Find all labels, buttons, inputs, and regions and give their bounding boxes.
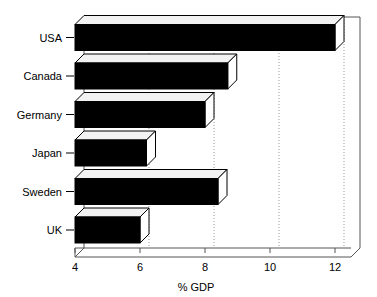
category-label-canada: Canada <box>23 70 62 82</box>
bar-japan[interactable] <box>75 131 156 166</box>
category-label-usa: USA <box>39 32 62 44</box>
bar-sweden[interactable] <box>75 170 227 205</box>
bar-front-face <box>75 102 205 128</box>
bar-usa[interactable] <box>75 16 344 51</box>
chart-canvas: 4 6 8 10 12 % GDP UKSwedenJapanGermanyCa… <box>0 0 377 297</box>
x-tick-label-1: 6 <box>137 261 143 273</box>
bar-front-face <box>75 25 335 51</box>
bar-top-face <box>75 208 149 217</box>
bar-top-face <box>75 16 344 25</box>
bar-front-face <box>75 140 147 166</box>
x-tick-label-3: 10 <box>264 261 276 273</box>
bar-front-face <box>75 63 228 89</box>
bar-germany[interactable] <box>75 93 214 128</box>
x-tick-label-4: 12 <box>329 261 341 273</box>
x-axis-title: % GDP <box>178 281 215 293</box>
x-tick-label-2: 8 <box>202 261 208 273</box>
bar-top-face <box>75 54 237 63</box>
bar-front-face <box>75 217 140 243</box>
category-label-germany: Germany <box>17 109 63 121</box>
bar-chart: 4 6 8 10 12 % GDP UKSwedenJapanGermanyCa… <box>0 0 377 297</box>
bar-top-face <box>75 93 214 102</box>
category-label-japan: Japan <box>32 147 62 159</box>
bar-front-face <box>75 179 218 205</box>
category-label-sweden: Sweden <box>22 186 62 198</box>
bar-uk[interactable] <box>75 208 149 243</box>
bar-canada[interactable] <box>75 54 237 89</box>
bar-top-face <box>75 170 227 179</box>
bar-top-face <box>75 131 156 140</box>
x-tick-label-0: 4 <box>72 261 78 273</box>
category-label-uk: UK <box>47 224 63 236</box>
